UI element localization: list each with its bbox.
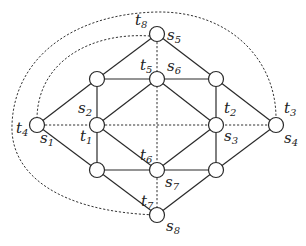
label-t2: t2	[224, 99, 236, 118]
label-t3: t3	[284, 99, 296, 118]
graph-diagram: t8 s5 t5 s6 s2 t1 t2 s3 t3 s4 t4 s1 t6 s…	[0, 0, 306, 246]
label-t7: t7	[141, 192, 154, 211]
label-t6: t6	[140, 146, 153, 165]
label-t4: t4	[16, 119, 28, 138]
label-s4: s4	[284, 129, 298, 148]
node-upper-right	[209, 72, 224, 87]
label-s3: s3	[224, 127, 238, 146]
node-top	[150, 27, 165, 42]
node-lower-left	[90, 163, 105, 178]
label-s5: s5	[167, 26, 181, 45]
label-t8: t8	[135, 11, 147, 30]
label-s1: s1	[40, 129, 54, 148]
label-s6: s6	[167, 57, 182, 76]
label-s2: s2	[78, 99, 92, 118]
label-s7: s7	[165, 173, 180, 192]
dashed-edges	[37, 34, 276, 215]
node-lower-right	[209, 163, 224, 178]
node-mid-right	[209, 118, 224, 133]
node-mid-left	[90, 118, 105, 133]
label-s8: s8	[166, 217, 180, 236]
label-t5: t5	[140, 56, 152, 75]
node-right	[269, 118, 284, 133]
node-upper-left	[90, 72, 105, 87]
